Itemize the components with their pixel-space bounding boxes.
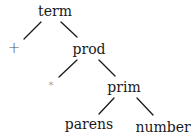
parse-tree-diagram: term + prod * prim parens number bbox=[0, 0, 193, 135]
node-parens: parens bbox=[65, 117, 114, 131]
node-prim: prim bbox=[107, 80, 140, 94]
edge-term-prod bbox=[61, 22, 77, 37]
node-prod: prod bbox=[72, 42, 105, 56]
edge-term-plus bbox=[24, 22, 41, 39]
tree-edges bbox=[0, 0, 193, 135]
node-plus: + bbox=[8, 41, 21, 56]
node-term: term bbox=[38, 4, 72, 18]
edge-prim-parens bbox=[99, 98, 114, 114]
edge-prim-number bbox=[137, 98, 153, 115]
edge-prod-star bbox=[59, 60, 77, 77]
node-star: * bbox=[48, 80, 54, 91]
node-number: number bbox=[135, 120, 190, 134]
edge-prod-prim bbox=[99, 60, 115, 76]
